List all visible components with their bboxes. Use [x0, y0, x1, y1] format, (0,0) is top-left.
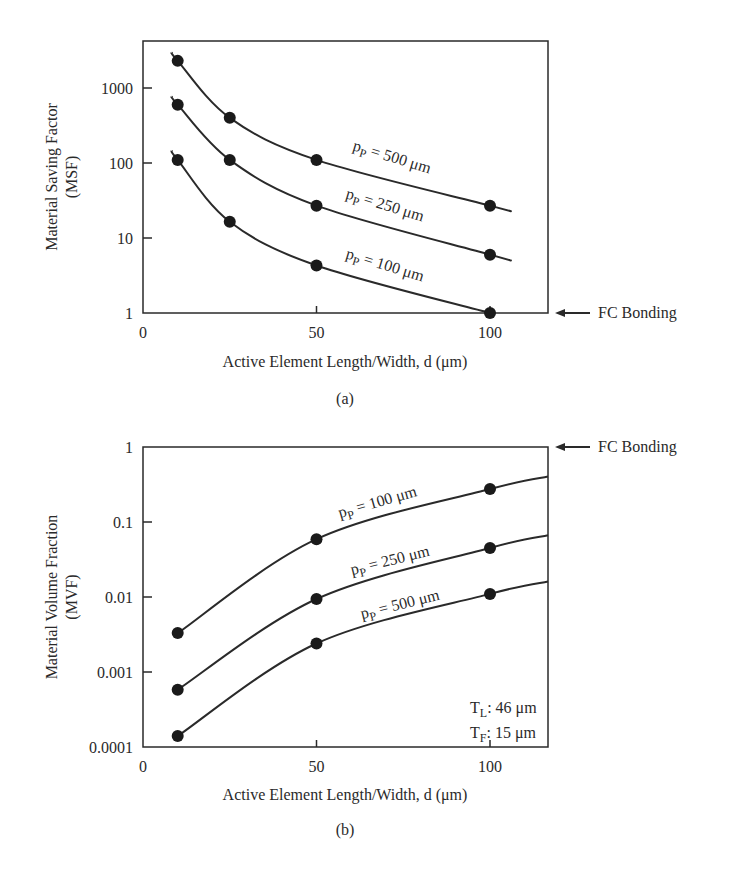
data-point-marker — [172, 730, 184, 742]
data-point-marker — [484, 588, 496, 600]
y-tick-label: 0.01 — [105, 589, 133, 606]
data-point-marker — [224, 112, 236, 124]
y-tick-label: 1 — [125, 305, 133, 322]
series-label: pP = 250 μm — [343, 185, 427, 229]
y-axis-label: Material Volume Fraction — [43, 515, 60, 680]
data-point-marker — [311, 200, 323, 212]
data-series — [171, 52, 510, 319]
series-label: pP = 100 μm — [343, 245, 427, 289]
data-point-marker — [224, 216, 236, 228]
series-label: pP = 500 μm — [359, 586, 443, 626]
data-point-marker — [311, 637, 323, 649]
y-tick-label: 1 — [125, 439, 133, 456]
data-point-marker — [172, 154, 184, 166]
data-point-marker — [484, 483, 496, 495]
x-tick-label: 100 — [478, 758, 502, 775]
plot-area-frame — [143, 41, 548, 313]
x-tick-label: 0 — [139, 758, 147, 775]
parameter-line: TL: 46 μm — [470, 699, 537, 720]
x-tick-label: 100 — [478, 324, 502, 341]
y-axis-label-sub: (MSF) — [63, 156, 81, 199]
y-axis-label-sub: (MVF) — [63, 574, 81, 619]
data-point-marker — [172, 627, 184, 639]
series-label: pP = 250 μm — [349, 542, 433, 582]
series-line — [171, 96, 510, 260]
y-tick-label: 10 — [117, 230, 133, 247]
x-axis-ticks: 050100 — [139, 306, 502, 341]
y-tick-label: 0.001 — [97, 664, 133, 681]
y-tick-label: 0.1 — [113, 514, 133, 531]
x-tick-label: 50 — [309, 324, 325, 341]
fc-bonding-label: FC Bonding — [598, 438, 677, 456]
series-label: pP = 100 μm — [336, 482, 420, 525]
data-point-marker — [484, 542, 496, 554]
series-labels: pP = 500 μmpP = 250 μmpP = 100 μm — [343, 137, 434, 289]
data-point-marker — [311, 593, 323, 605]
data-point-marker — [484, 200, 496, 212]
series-line — [171, 52, 510, 211]
data-point-marker — [311, 154, 323, 166]
x-tick-label: 50 — [309, 758, 325, 775]
fc-bonding-annotation: FC Bonding — [555, 438, 677, 456]
y-tick-label: 100 — [109, 155, 133, 172]
chart-panel-b: 0.00010.0010.010.11 050100 pP = 100 μmpP… — [43, 438, 677, 839]
data-point-marker — [172, 684, 184, 696]
chart-panel-a: 1101001000 050100 pP = 500 μmpP = 250 μm… — [43, 41, 677, 408]
arrow-head-icon — [555, 309, 565, 317]
data-point-marker — [172, 55, 184, 67]
y-tick-label: 1000 — [101, 80, 133, 97]
data-point-marker — [224, 154, 236, 166]
y-axis-ticks: 1101001000 — [101, 80, 152, 322]
parameter-note: TL: 46 μmTF: 15 μm — [470, 699, 537, 745]
data-point-marker — [484, 307, 496, 319]
arrow-head-icon — [555, 443, 565, 451]
fc-bonding-label: FC Bonding — [598, 304, 677, 322]
x-axis-label: Active Element Length/Width, d (μm) — [223, 353, 468, 371]
parameter-line: TF: 15 μm — [470, 724, 536, 745]
figure: 1101001000 050100 pP = 500 μmpP = 250 μm… — [0, 0, 736, 875]
data-point-marker — [172, 99, 184, 111]
fc-bonding-annotation: FC Bonding — [555, 304, 677, 322]
x-axis-ticks: 050100 — [139, 740, 502, 775]
data-point-marker — [311, 533, 323, 545]
x-axis-label: Active Element Length/Width, d (μm) — [223, 786, 468, 804]
data-point-marker — [311, 259, 323, 271]
y-axis-label: Material Saving Factor — [43, 103, 61, 251]
data-point-marker — [484, 249, 496, 261]
x-tick-label: 0 — [139, 324, 147, 341]
y-tick-label: 0.0001 — [89, 739, 133, 756]
panel-label: (a) — [336, 390, 354, 408]
panel-label: (b) — [336, 821, 355, 839]
series-line — [171, 151, 490, 313]
